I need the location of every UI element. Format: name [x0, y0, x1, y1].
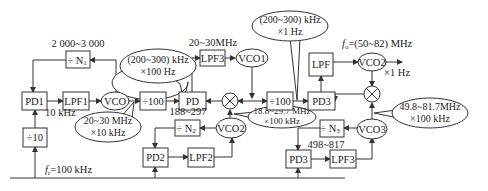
block-vco2-top: VCO2 — [358, 53, 386, 71]
block-pd1: PD1 — [22, 92, 47, 110]
svg-text:PD: PD — [186, 96, 200, 107]
svg-text:LPF3: LPF3 — [201, 53, 224, 64]
synthesizer-block-diagram: (200~300) kHz ×100 Hz 20~30 MHz ×10 kHz … — [0, 0, 488, 191]
block-pd3-top: PD3 — [308, 92, 335, 110]
svg-text:PD3: PD3 — [289, 154, 308, 165]
svg-text:VCO2: VCO2 — [358, 57, 385, 68]
callout-3-step: ×1 Hz — [278, 26, 303, 37]
svg-text:÷100: ÷100 — [269, 96, 291, 107]
svg-text:÷100: ÷100 — [142, 96, 164, 107]
svg-text:VCO3: VCO3 — [358, 124, 385, 135]
block-lpf3-top: LPF3 — [200, 50, 225, 66]
block-lpf: LPF — [309, 53, 333, 76]
lpf2-to-vco2mid — [214, 138, 232, 157]
callout-1-step: ×100 Hz — [141, 66, 176, 77]
callout-2-freq: 20~30 MHz — [84, 115, 133, 126]
lpf3bottom-to-vco3 — [356, 138, 372, 159]
fo-label: fo=(50~82) MHz — [342, 38, 413, 51]
callout-5: 49.8~81.7MHz ×100 kHz — [374, 98, 468, 128]
mixer2-to-pd3top — [335, 94, 364, 101]
block-lpf2: LPF2 — [188, 148, 214, 167]
svg-text:VCO: VCO — [104, 96, 127, 107]
fr-label: fr=100 kHz — [45, 164, 92, 177]
svg-text:÷10: ÷10 — [27, 132, 43, 143]
block-div100-a: ÷100 — [140, 92, 166, 110]
block-pd3-bottom: PD3 — [286, 150, 311, 168]
n3-range-label: 498~817 — [307, 139, 344, 150]
block-div-n3: ÷ N3 — [320, 120, 344, 137]
block-div-n1: ÷ N1 — [66, 51, 90, 68]
callout-5-freq: 49.8~81.7MHz — [400, 101, 462, 112]
ten-khz-label: 10 kHz — [45, 107, 76, 118]
svg-text:LPF1: LPF1 — [64, 96, 87, 107]
callout-2-step: ×10 kHz — [91, 127, 126, 138]
divn2-to-pd2 — [155, 128, 175, 148]
block-vco3: VCO3 — [357, 119, 387, 139]
vco-to-divn1 — [90, 60, 116, 92]
callout-3-freq: (200~300) kHz — [259, 14, 321, 26]
svg-text:VCO1: VCO1 — [238, 53, 265, 64]
lpf3-freq-label: 20~30MHz — [189, 37, 238, 48]
n2-range-label: 188~297 — [169, 106, 206, 117]
block-vco: VCO — [101, 92, 129, 110]
svg-text:PD1: PD1 — [25, 96, 44, 107]
mixer-2 — [364, 86, 380, 102]
block-lpf3-bottom: LPF3 — [330, 150, 356, 168]
svg-text:PD3: PD3 — [312, 96, 331, 107]
block-div-n2: ÷ N2 — [175, 120, 200, 136]
n1-range-label: 2 000~3 000 — [52, 38, 105, 49]
divn1-to-pd1 — [33, 60, 66, 92]
svg-text:VCO2: VCO2 — [217, 123, 244, 134]
block-vco1: VCO1 — [236, 49, 268, 67]
svg-text:PD2: PD2 — [146, 152, 165, 163]
block-vco2-mid: VCO2 — [216, 118, 246, 138]
callout-4-step: ×100 kHz — [264, 116, 300, 126]
callout-5-step: ×100 kHz — [410, 113, 450, 124]
x1hz-label: ×1 Hz — [384, 67, 410, 78]
callout-1-freq: (200~300) kHz — [127, 54, 189, 66]
svg-text:LPF3: LPF3 — [331, 154, 354, 165]
block-pd2: PD2 — [143, 148, 168, 167]
svg-text:LPF: LPF — [312, 59, 330, 70]
block-div100-b: ÷100 — [267, 92, 293, 110]
svg-text:LPF2: LPF2 — [189, 152, 212, 163]
mixer-1 — [222, 93, 238, 109]
block-div10: ÷10 — [23, 128, 47, 147]
